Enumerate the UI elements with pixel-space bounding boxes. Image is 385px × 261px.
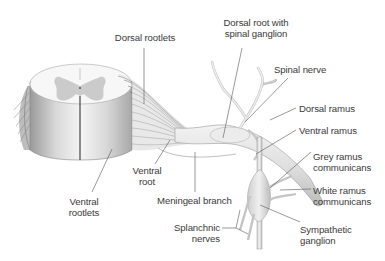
label-sympathetic-line1: Sympathetic <box>300 224 352 235</box>
dorsal-ramus <box>212 62 276 128</box>
label-dorsal-root-ganglion: Dorsal root with spinal ganglion <box>208 17 304 39</box>
label-dorsal-root-line2: spinal ganglion <box>208 28 304 39</box>
label-ventral-root-line1: Ventral <box>126 165 168 176</box>
label-grey-ramus-communicans: Grey ramus communicans <box>313 151 371 173</box>
meningeal-branch-nerve <box>158 148 236 157</box>
label-sympathetic-line2: ganglion <box>300 235 352 246</box>
label-grey-ramus-line1: Grey ramus <box>313 151 371 162</box>
label-white-ramus-communicans: White ramus communicans <box>313 185 371 207</box>
label-splanchnic-line2: nerves <box>148 233 220 244</box>
label-dorsal-root-line1: Dorsal root with <box>208 17 304 28</box>
sympathetic-ganglion <box>247 170 270 222</box>
label-ventral-rootlets-line1: Ventral <box>60 196 108 207</box>
label-ventral-rootlets: Ventral rootlets <box>60 196 108 218</box>
label-white-ramus-line1: White ramus <box>313 185 371 196</box>
label-dorsal-rootlets: Dorsal rootlets <box>110 32 180 43</box>
label-white-ramus-line2: communicans <box>313 196 371 207</box>
label-ventral-ramus: Ventral ramus <box>299 125 357 136</box>
label-dorsal-ramus: Dorsal ramus <box>299 103 355 114</box>
label-spinal-nerve: Spinal nerve <box>274 64 326 75</box>
spinal-cord <box>14 64 132 160</box>
spinal-nerve-diagram: Dorsal rootlets Dorsal root with spinal … <box>0 0 385 261</box>
label-ventral-root-line2: root <box>126 176 168 187</box>
label-ventral-root: Ventral root <box>126 165 168 187</box>
label-sympathetic-ganglion: Sympathetic ganglion <box>300 224 352 246</box>
label-ventral-rootlets-line2: rootlets <box>60 207 108 218</box>
label-splanchnic-line1: Splanchnic <box>148 222 220 233</box>
label-grey-ramus-line2: communicans <box>313 162 371 173</box>
label-splanchnic-nerves: Splanchnic nerves <box>148 222 220 244</box>
label-meningeal-branch: Meningeal branch <box>157 195 232 206</box>
